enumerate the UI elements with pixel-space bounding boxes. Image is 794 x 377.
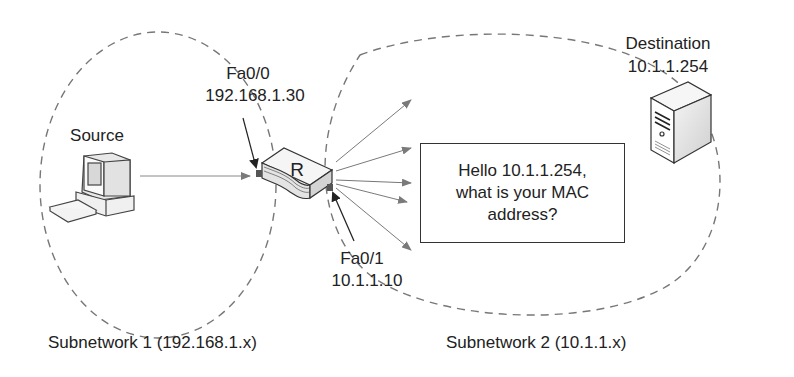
interface-fa0-0-label: Fa0/0	[208, 64, 288, 84]
source-label: Source	[62, 126, 132, 146]
message-line-1: Hello 10.1.1.254,	[458, 160, 587, 182]
arp-request-message-box: Hello 10.1.1.254, what is your MAC addre…	[420, 143, 625, 243]
fa0-0-pointer-arrow	[243, 118, 256, 167]
destination-ip: 10.1.1.254	[613, 57, 723, 77]
subnetwork-2-label: Subnetwork 2 (10.1.1.x)	[446, 333, 686, 353]
router-label: R	[285, 160, 309, 180]
destination-label: Destination	[613, 34, 723, 54]
interface-fa0-1-ip: 10.1.1.10	[317, 271, 417, 291]
interface-fa0-1-name: Fa0/1	[340, 249, 383, 268]
message-line-3: address?	[488, 204, 558, 226]
server-tower-icon	[651, 82, 711, 163]
interface-fa0-0-name: Fa0/0	[226, 64, 269, 83]
message-line-2: what is your MAC	[456, 182, 589, 204]
interface-fa0-0-ip: 192.168.1.30	[190, 86, 320, 106]
interface-fa0-1-label: Fa0/1	[322, 249, 402, 269]
broadcast-arrows	[336, 100, 411, 250]
subnetwork-1-label: Subnetwork 1 (192.168.1.x)	[48, 333, 318, 353]
desktop-computer-icon	[50, 153, 134, 222]
